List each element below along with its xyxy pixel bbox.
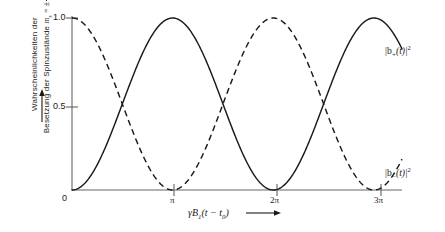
b-minus-sup: 2 bbox=[408, 166, 411, 173]
b-plus-sup: 2 bbox=[408, 44, 411, 51]
curve-label-b-minus: |b−(t)|2 bbox=[385, 166, 411, 180]
y-axis-label-line-1: Wahrscheinlichkeiten der bbox=[30, 17, 41, 111]
x-axis-label-rest: (t − t bbox=[201, 207, 222, 218]
x-axis-label-text: γB1(t − t0) bbox=[188, 207, 229, 220]
x-tick-label-2pi: 2π bbox=[270, 195, 279, 205]
b-plus-mid: (t)| bbox=[396, 46, 408, 56]
b-minus-mid: (t)| bbox=[396, 168, 408, 178]
y-axis-label-eq: = ± bbox=[42, 2, 51, 14]
y-axis-label-ms: m bbox=[42, 18, 51, 24]
y-tick-label-0: 0 bbox=[62, 193, 67, 203]
y-axis-label-line-2: Besetzung der Spinzustände ms = ±12 bbox=[40, 0, 54, 133]
y-axis-label: Wahrscheinlichkeiten der Besetzung der S… bbox=[24, 0, 60, 152]
b-minus-bar: |b bbox=[385, 168, 392, 178]
x-axis-label-close: ) bbox=[226, 207, 229, 218]
y-axis-label-fraction: 12 bbox=[40, 0, 54, 1]
curve-b-minus-dashed bbox=[72, 18, 402, 190]
x-tick-label-3pi: 3π bbox=[374, 195, 383, 205]
y-axis-label-ms-sub: s bbox=[47, 15, 53, 17]
curve-b-plus-solid bbox=[72, 18, 402, 190]
x-axis-label: γB1(t − t0) bbox=[188, 207, 274, 220]
fraction-denominator: 2 bbox=[46, 0, 54, 1]
x-axis-label-gamma: γB bbox=[188, 207, 198, 218]
y-axis-label-line-2-text: Besetzung der Spinzustände bbox=[42, 26, 51, 134]
x-tick-label-pi: π bbox=[170, 195, 175, 205]
curve-label-b-plus: |b+(t)|2 bbox=[385, 44, 411, 58]
b-plus-bar: |b bbox=[385, 46, 392, 56]
